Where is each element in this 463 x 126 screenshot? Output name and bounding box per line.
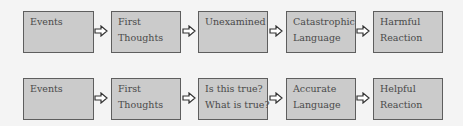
step-accurate-language: Accurate Language [286, 78, 356, 120]
hollow-right-arrow-icon [356, 92, 370, 104]
step-helpful-reaction: Helpful Reaction [373, 78, 443, 120]
hollow-right-arrow-icon [182, 92, 196, 104]
step-label-line1: First [118, 14, 180, 30]
step-label-line2: Thoughts [118, 30, 180, 46]
step-label-line2: Language [293, 30, 355, 46]
step-first-thoughts: First Thoughts [111, 11, 181, 53]
step-label-line1: Unexamined [205, 14, 267, 30]
step-is-this-true: Is this true? What is true? [198, 78, 268, 120]
step-unexamined: Unexamined [198, 11, 268, 53]
step-events: Events [23, 11, 94, 53]
hollow-right-arrow-icon [182, 25, 196, 37]
hollow-right-arrow-icon [269, 25, 283, 37]
step-label-line1: Harmful [380, 14, 442, 30]
step-label-line1: Catastrophic [293, 14, 355, 30]
row-helpful-chain: Events First Thoughts Is this true? What… [0, 78, 463, 120]
step-label-line2: Language [293, 97, 355, 113]
row-unhelpful-chain: Events First Thoughts Unexamined Catastr… [0, 11, 463, 53]
step-label-line1: First [118, 81, 180, 97]
step-label-line2: Thoughts [118, 97, 180, 113]
hollow-right-arrow-icon [356, 25, 370, 37]
step-label-line2: Reaction [380, 30, 442, 46]
step-events: Events [23, 78, 94, 120]
hollow-right-arrow-icon [94, 92, 108, 104]
step-label-line1: Events [30, 81, 93, 97]
hollow-right-arrow-icon [269, 92, 283, 104]
hollow-right-arrow-icon [94, 25, 108, 37]
step-label-line2: What is true? [205, 97, 267, 113]
step-label-line1: Events [30, 14, 93, 30]
step-harmful-reaction: Harmful Reaction [373, 11, 443, 53]
step-label-line1: Helpful [380, 81, 442, 97]
step-label-line1: Accurate [293, 81, 355, 97]
step-first-thoughts: First Thoughts [111, 78, 181, 120]
step-label-line1: Is this true? [205, 81, 267, 97]
step-label-line2: Reaction [380, 97, 442, 113]
step-catastrophic-language: Catastrophic Language [286, 11, 356, 53]
